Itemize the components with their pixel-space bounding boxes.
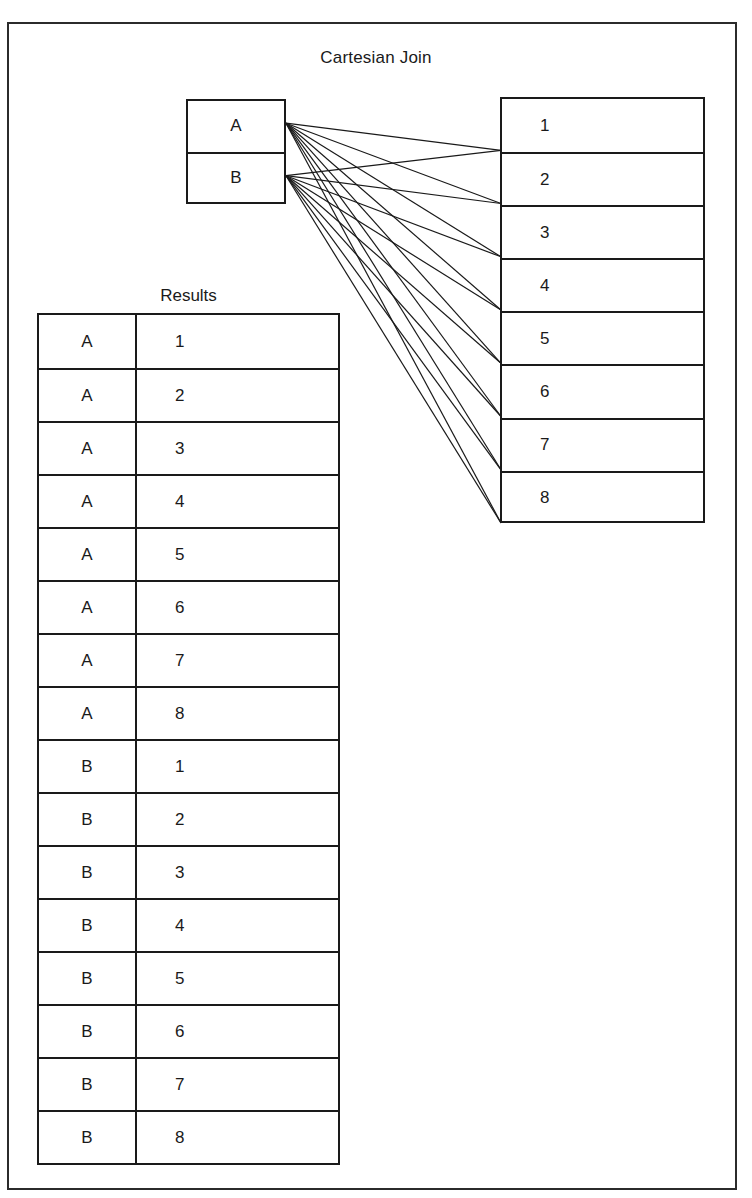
results-cell-number: 2 xyxy=(137,794,338,845)
results-table-row: A7 xyxy=(39,633,338,686)
figure-canvas: Cartesian Join A B 1 2 3 4 5 6 7 8 Resul… xyxy=(0,0,752,1198)
results-cell-number: 8 xyxy=(137,688,338,739)
results-cell-number: 6 xyxy=(137,582,338,633)
results-table-row: B8 xyxy=(39,1110,338,1163)
numbers-table-row: 6 xyxy=(502,364,703,417)
numbers-table-row: 1 xyxy=(502,99,703,152)
numbers-table-row: 4 xyxy=(502,258,703,311)
results-cell-letter: A xyxy=(39,582,137,633)
results-cell-number: 4 xyxy=(137,900,338,951)
results-cell-letter: B xyxy=(39,1059,137,1110)
results-table-row: A3 xyxy=(39,421,338,474)
letters-table: A B xyxy=(186,99,286,204)
numbers-table-row: 3 xyxy=(502,205,703,258)
numbers-table-row: 2 xyxy=(502,152,703,205)
results-cell-letter: B xyxy=(39,1006,137,1057)
results-cell-number: 7 xyxy=(137,635,338,686)
results-cell-letter: B xyxy=(39,900,137,951)
figure-title: Cartesian Join xyxy=(0,48,752,68)
letters-table-row: A xyxy=(188,101,284,152)
results-cell-letter: B xyxy=(39,1112,137,1163)
results-table-row: A6 xyxy=(39,580,338,633)
results-cell-letter: B xyxy=(39,794,137,845)
results-cell-number: 6 xyxy=(137,1006,338,1057)
results-table-row: B3 xyxy=(39,845,338,898)
results-cell-letter: A xyxy=(39,370,137,421)
results-table-row: A8 xyxy=(39,686,338,739)
results-table: A1A2A3A4A5A6A7A8B1B2B3B4B5B6B7B8 xyxy=(37,313,340,1165)
results-cell-number: 2 xyxy=(137,370,338,421)
results-table-row: B1 xyxy=(39,739,338,792)
results-cell-letter: B xyxy=(39,741,137,792)
results-cell-number: 3 xyxy=(137,423,338,474)
results-table-row: A5 xyxy=(39,527,338,580)
results-cell-number: 7 xyxy=(137,1059,338,1110)
numbers-table-row: 5 xyxy=(502,311,703,364)
letters-table-row: B xyxy=(188,152,284,203)
results-cell-number: 5 xyxy=(137,953,338,1004)
results-table-row: A4 xyxy=(39,474,338,527)
numbers-table-row: 7 xyxy=(502,418,703,471)
results-cell-letter: A xyxy=(39,423,137,474)
results-cell-number: 3 xyxy=(137,847,338,898)
results-cell-letter: A xyxy=(39,688,137,739)
results-cell-letter: A xyxy=(39,529,137,580)
results-cell-letter: A xyxy=(39,635,137,686)
results-table-row: B5 xyxy=(39,951,338,1004)
results-cell-number: 5 xyxy=(137,529,338,580)
results-table-row: A1 xyxy=(39,315,338,368)
results-cell-letter: A xyxy=(39,476,137,527)
numbers-table: 1 2 3 4 5 6 7 8 xyxy=(500,97,705,523)
results-table-row: B2 xyxy=(39,792,338,845)
results-cell-number: 4 xyxy=(137,476,338,527)
results-table-label: Results xyxy=(37,286,340,306)
results-table-row: A2 xyxy=(39,368,338,421)
results-cell-number: 1 xyxy=(137,741,338,792)
numbers-table-row: 8 xyxy=(502,471,703,524)
results-table-row: B7 xyxy=(39,1057,338,1110)
results-cell-letter: B xyxy=(39,953,137,1004)
results-table-row: B4 xyxy=(39,898,338,951)
results-cell-letter: B xyxy=(39,847,137,898)
results-table-row: B6 xyxy=(39,1004,338,1057)
results-cell-number: 8 xyxy=(137,1112,338,1163)
results-cell-number: 1 xyxy=(137,315,338,368)
results-cell-letter: A xyxy=(39,315,137,368)
